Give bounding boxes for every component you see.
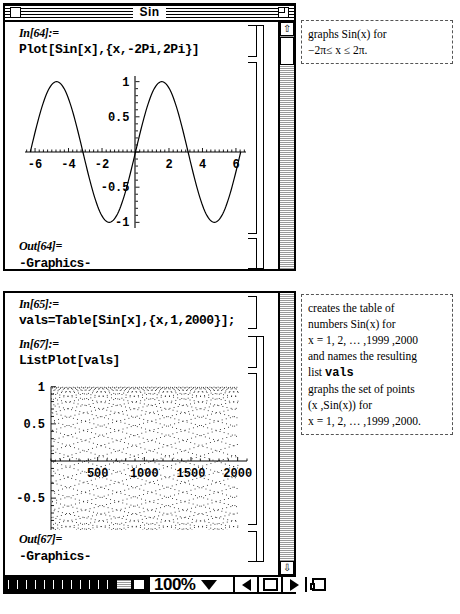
page-field[interactable] (259, 577, 283, 592)
status-bar[interactable]: 100% (5, 575, 294, 592)
svg-text:0.5: 0.5 (108, 111, 130, 125)
pages-icon (312, 578, 326, 591)
in-label-65: In[65]:= (19, 298, 59, 311)
svg-text:6: 6 (232, 158, 239, 172)
cell-bracket-input-65[interactable] (248, 296, 257, 329)
cell-bracket-group-67[interactable] (257, 336, 264, 562)
callout2-vals-word: vals (325, 366, 354, 380)
in-code-65[interactable]: vals=Table[Sin[x],{x,1,2000}]; (19, 313, 235, 328)
out-code-64: -Graphics- (19, 256, 91, 269)
arrow-left-icon (242, 579, 251, 591)
svg-text:-1: -1 (115, 216, 129, 230)
callout2-line-4: list vals (308, 364, 446, 381)
in-code-64[interactable]: Plot[Sin[x],{x,-2Pi,2Pi}] (19, 42, 199, 57)
notebook-content-2[interactable]: In[65]:= vals=Table[Sin[x],{x,1,2000}]; … (5, 293, 264, 575)
window-titlebar[interactable]: Sin (5, 5, 294, 22)
sine-plot: -6-4-2246 10.5-0.5-1 (13, 62, 253, 237)
in-code-67[interactable]: ListPlot[vals] (19, 353, 120, 368)
out-code-67: -Graphics- (19, 549, 91, 564)
scroll-up-arrow-icon[interactable]: ⇧ (280, 22, 294, 36)
pages-view-button[interactable] (307, 577, 331, 592)
scroll-thumb-1[interactable] (280, 37, 294, 65)
in-label-64: In[64]:= (19, 27, 59, 40)
svg-text:2: 2 (165, 158, 172, 172)
zoom-level-label: 100% (154, 576, 195, 593)
arrow-right-icon (290, 579, 299, 591)
in-label-67: In[67]:= (19, 338, 59, 351)
horizontal-scrollbar[interactable] (5, 577, 150, 592)
callout2-line-1: numbers Sin(x) for (308, 316, 446, 332)
cell-bracket-input-64[interactable] (248, 25, 257, 57)
zoom-control[interactable]: 100% (150, 577, 235, 592)
cell-bracket-output-64[interactable] (248, 238, 257, 269)
chevron-down-icon[interactable] (201, 580, 217, 590)
svg-text:0.5: 0.5 (23, 418, 45, 432)
scroll-up-glyph: ⇧ (283, 24, 291, 34)
listplot-scatter: 500100015002000 10.5-0.5-1 (15, 375, 255, 530)
scroll-down-glyph: ⇩ (283, 563, 291, 573)
callout2-line-5: graphs the set of points (308, 381, 446, 397)
page-indicator-box (263, 578, 278, 591)
svg-text:-0.5: -0.5 (101, 181, 130, 195)
close-box-icon[interactable] (10, 7, 21, 18)
sine-plot-svg: -6-4-2246 10.5-0.5-1 (13, 62, 253, 237)
scroll-grip-icon[interactable] (117, 580, 131, 589)
svg-text:4: 4 (199, 158, 206, 172)
callout2-line-2: x = 1, 2, … ,1999 ,2000 (308, 332, 446, 348)
svg-text:1500: 1500 (177, 467, 206, 481)
cell-bracket-group-64[interactable] (257, 25, 264, 269)
callout2-line-4-text: list (308, 366, 322, 378)
next-page-button[interactable] (283, 577, 307, 592)
callout1-line-1: −2π≤ x ≤ 2π. (308, 42, 446, 58)
svg-text:1000: 1000 (130, 467, 159, 481)
svg-text:-0.5: -0.5 (16, 492, 45, 506)
notebook-window-listplot[interactable]: In[65]:= vals=Table[Sin[x],{x,1,2000}]; … (3, 291, 296, 594)
svg-text:1: 1 (122, 76, 129, 90)
callout-listplot-description: creates the table of numbers Sin(x) for … (301, 294, 453, 435)
callout1-line-0: graphs Sin(x) for (308, 26, 446, 42)
window-title: Sin (133, 6, 167, 19)
out-label-64: Out[64]= (19, 240, 62, 253)
scroll-down-arrow-icon[interactable]: ⇩ (280, 561, 294, 575)
svg-text:1: 1 (38, 381, 45, 395)
cell-bracket-graphics-64[interactable] (248, 62, 257, 234)
svg-text:-2: -2 (95, 158, 109, 172)
svg-text:-6: -6 (28, 158, 42, 172)
notebook-window-sin[interactable]: Sin In[64]:= Plot[Sin[x],{x,-2Pi,2Pi}] -… (3, 3, 296, 271)
callout2-line-3: and names the resulting (308, 348, 446, 364)
listplot-svg: 500100015002000 10.5-0.5-1 (15, 375, 255, 530)
prev-page-button[interactable] (235, 577, 259, 592)
svg-text:-1: -1 (31, 529, 45, 530)
callout2-line-0: creates the table of (308, 300, 446, 316)
callout2-line-6: (x ,Sin(x)) for (308, 397, 446, 413)
callout2-line-7: x = 1, 2, … ,1999 ,2000. (308, 413, 446, 429)
out-label-67: Out[67]= (19, 533, 62, 546)
callout-sin-description: graphs Sin(x) for −2π≤ x ≤ 2π. (301, 20, 453, 64)
cell-bracket-output-67[interactable] (248, 531, 257, 562)
notebook-content-1[interactable]: In[64]:= Plot[Sin[x],{x,-2Pi,2Pi}] -6-4-… (5, 22, 264, 269)
svg-text:-4: -4 (61, 158, 75, 172)
cell-bracket-input-67[interactable] (248, 336, 257, 368)
cell-bracket-graphics-67[interactable] (248, 373, 257, 525)
vertical-scrollbar-2[interactable]: ⇩ (278, 293, 294, 575)
vertical-scrollbar-1[interactable]: ⇧ (278, 22, 294, 269)
zoom-box-icon[interactable] (278, 7, 289, 18)
svg-text:500: 500 (87, 467, 109, 481)
